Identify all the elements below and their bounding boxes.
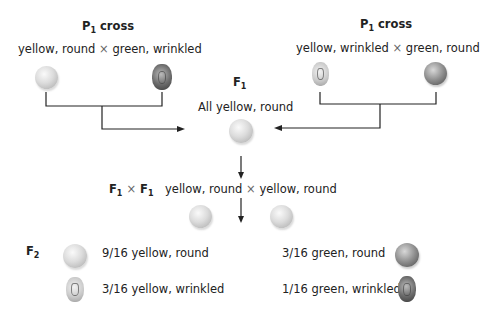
pea-green-round-icon — [424, 62, 447, 85]
f1-cross-parents: yellow, round × yellow, round — [165, 182, 337, 196]
f2-label: F2 — [26, 244, 39, 263]
pea-f1-parent-b-icon — [270, 205, 293, 228]
left-cross-title: P1 cross — [82, 19, 134, 38]
f2-result-green-round: 3/16 green, round — [282, 246, 385, 260]
f2-result-yellow-wrinkled: 3/16 yellow, wrinkled — [102, 282, 224, 296]
f1-label: F1 — [233, 75, 246, 94]
f2-result-green-wrinkled: 1/16 green, wrinkled — [282, 282, 401, 296]
pea-yellow-wrinkled-icon — [312, 62, 329, 86]
pea-f2-green-round-icon — [395, 243, 419, 267]
pea-f1-yellow-round-icon — [229, 119, 253, 143]
f1-description: All yellow, round — [198, 100, 293, 114]
f2-result-yellow-round: 9/16 yellow, round — [102, 246, 209, 260]
pea-f1-parent-a-icon — [189, 205, 212, 228]
pea-green-wrinkled-icon — [152, 64, 172, 90]
f1-cross-label: F1 × F1 — [109, 182, 154, 201]
pea-yellow-round-icon — [35, 66, 58, 89]
pea-f2-yellow-round-icon — [63, 244, 87, 268]
left-cross-parents: yellow, round × green, wrinkled — [18, 42, 202, 56]
right-cross-title: P1 cross — [360, 17, 412, 36]
pea-f2-yellow-wrinkled-icon — [66, 277, 84, 302]
pea-f2-green-wrinkled-icon — [398, 276, 416, 302]
right-cross-parents: yellow, wrinkled × green, round — [296, 41, 480, 55]
